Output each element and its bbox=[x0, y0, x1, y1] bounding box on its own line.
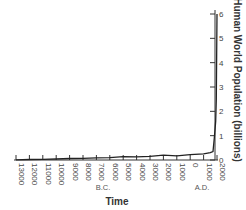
x-tick-label: 6000 bbox=[111, 163, 120, 181]
x-tick-label: 13000 bbox=[17, 163, 26, 186]
x-tick-label: 8000 bbox=[84, 163, 93, 181]
x-tick-label: 10000 bbox=[57, 163, 66, 186]
x-tick-label: 4000 bbox=[138, 163, 147, 181]
x-tick-label: 3000 bbox=[151, 163, 160, 181]
y-tick-label: 5 bbox=[219, 34, 224, 43]
era-label-ad: A.D. bbox=[195, 183, 210, 192]
x-tick-label: 5000 bbox=[124, 163, 133, 181]
population-line bbox=[16, 14, 217, 160]
y-tick-label: 1 bbox=[219, 132, 224, 141]
x-tick-label: 2000 bbox=[218, 163, 227, 181]
y-tick-label: 3 bbox=[219, 83, 224, 92]
y-tick-label: 6 bbox=[219, 10, 224, 19]
x-tick-label: 9000 bbox=[71, 163, 80, 181]
x-tick-label: 7000 bbox=[97, 163, 106, 181]
y-tick-label: 2 bbox=[219, 107, 224, 116]
x-tick-label: 12000 bbox=[30, 163, 39, 186]
x-tick-label: 2000 bbox=[164, 163, 173, 181]
x-tick-label: 1000 bbox=[178, 163, 187, 181]
x-tick-label: 1000 bbox=[205, 163, 214, 181]
x-tick-label: 11000 bbox=[44, 163, 53, 185]
era-label-bc: B.C. bbox=[96, 183, 111, 192]
y-axis-title: Human World Population (billions) bbox=[232, 0, 243, 162]
x-axis-title: Time bbox=[105, 196, 129, 207]
y-tick-label: 4 bbox=[219, 59, 224, 68]
x-tick-label: 0 bbox=[191, 163, 200, 168]
population-chart: 0123456 13000120001100010000900080007000… bbox=[0, 0, 246, 210]
